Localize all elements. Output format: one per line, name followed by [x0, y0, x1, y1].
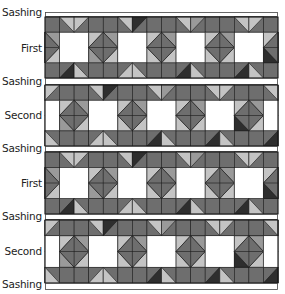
sashing-strip	[46, 147, 278, 152]
sashing-strip	[46, 284, 278, 290]
label-sashing: Sashing	[0, 75, 42, 87]
label-second-row: Second	[0, 109, 42, 121]
sashing-strip	[46, 79, 278, 85]
sashing-strip	[46, 215, 278, 220]
label-sashing: Sashing	[0, 142, 42, 154]
label-sashing: Sashing	[0, 6, 42, 18]
quilt-diagram	[0, 0, 285, 294]
label-first-row: First	[0, 42, 42, 54]
label-second-row: Second	[0, 245, 42, 257]
label-first-row: First	[0, 177, 42, 189]
label-sashing: Sashing	[0, 210, 42, 222]
sashing-strip	[46, 13, 278, 17]
label-sashing: Sashing	[0, 278, 42, 290]
